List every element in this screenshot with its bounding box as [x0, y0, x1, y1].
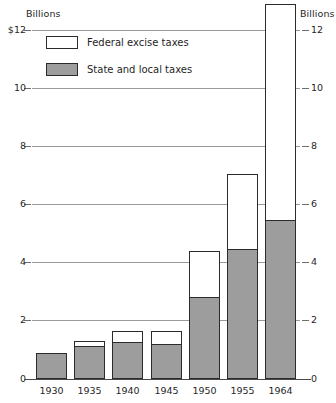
bar-group-1940 — [112, 331, 143, 379]
excise-tax-bar-chart: Billions Billions 00224466881010$1212 19… — [0, 0, 336, 403]
bar-segment-state-1940 — [112, 341, 143, 379]
x-tick-label-1964: 1964 — [259, 385, 302, 396]
bar-segment-federal-1940 — [112, 331, 143, 342]
bar-segment-federal-1964 — [265, 4, 296, 220]
legend-swatch-state-icon — [46, 63, 78, 76]
bar-segment-state-1955 — [227, 248, 258, 379]
bar-group-1935 — [74, 341, 105, 379]
x-tick-label-1935: 1935 — [68, 385, 111, 396]
bar-group-1964 — [265, 4, 296, 379]
bar-group-1955 — [227, 174, 258, 379]
bar-segment-state-1945 — [151, 344, 182, 379]
legend-label-federal: Federal excise taxes — [87, 37, 189, 48]
bar-segment-state-1950 — [189, 296, 220, 379]
bar-segment-federal-1945 — [151, 331, 182, 345]
legend-swatch-federal-icon — [46, 36, 78, 49]
legend-item-federal: Federal excise taxes — [46, 36, 189, 49]
bar-segment-state-1964 — [265, 219, 296, 379]
bar-group-1950 — [189, 251, 220, 379]
bar-segment-federal-1935 — [74, 341, 105, 347]
plot-area — [0, 0, 336, 403]
legend-label-state: State and local taxes — [87, 64, 192, 75]
x-tick-label-1940: 1940 — [106, 385, 149, 396]
x-tick-label-1930: 1930 — [30, 385, 73, 396]
bar-segment-state-1930 — [36, 353, 67, 379]
x-tick-label-1945: 1945 — [145, 385, 188, 396]
legend-item-state: State and local taxes — [46, 63, 192, 76]
x-tick-label-1950: 1950 — [183, 385, 226, 396]
bar-segment-federal-1955 — [227, 174, 258, 249]
bar-segment-state-1935 — [74, 346, 105, 379]
x-tick-label-1955: 1955 — [221, 385, 264, 396]
bar-group-1945 — [151, 331, 182, 379]
bar-group-1930 — [36, 352, 67, 379]
bar-segment-federal-1950 — [189, 251, 220, 297]
